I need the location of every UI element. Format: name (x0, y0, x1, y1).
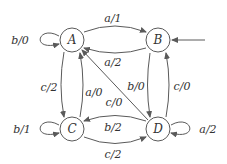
state-c-label: C (67, 122, 76, 136)
edge-a-to-b (84, 26, 146, 32)
edge-a-self (40, 33, 59, 45)
label-a-to-b: a/1 (104, 12, 121, 25)
label-a-to-c: c/2 (41, 81, 58, 94)
edge-c-self (40, 122, 59, 134)
label-d-to-a: c/0 (106, 96, 123, 109)
state-d: D (146, 117, 170, 141)
label-b-to-a: a/2 (104, 56, 121, 69)
state-a-label: A (67, 33, 77, 47)
state-a: A (60, 28, 84, 52)
label-c-to-a: a/0 (85, 86, 102, 99)
edge-c-to-d (84, 137, 146, 144)
label-b-to-d: b/0 (127, 80, 145, 93)
edge-a-to-c (61, 52, 64, 117)
state-b: B (146, 28, 170, 52)
edge-d-to-b (166, 53, 169, 117)
state-diagram: A B C D a/1 a/2 b/0 c/2 a/0 c/0 b/0 c/0 … (0, 0, 227, 164)
edge-d-self (171, 122, 190, 134)
label-d-to-b: c/0 (174, 80, 191, 93)
edge-b-to-d (148, 53, 151, 117)
edge-c-to-a (80, 53, 83, 117)
label-c-to-d: c/2 (105, 148, 122, 161)
edge-b-to-a (84, 48, 146, 53)
label-c-self: b/1 (13, 123, 31, 136)
label-d-to-c: b/2 (104, 121, 122, 134)
state-d-label: D (152, 122, 163, 136)
label-a-self: b/0 (11, 34, 29, 47)
state-b-label: B (153, 33, 163, 47)
label-d-self: a/2 (199, 123, 216, 136)
state-c: C (60, 117, 84, 141)
